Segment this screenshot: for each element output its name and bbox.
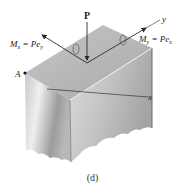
- eccentric-load-diagram: P y x A Mx = Pey My = Pex (d): [0, 0, 185, 191]
- label-point-a: A: [14, 69, 21, 79]
- figure-caption: (d): [0, 172, 185, 183]
- label-moment-y: My = Pex: [138, 34, 172, 45]
- label-y-axis: y: [161, 14, 166, 24]
- label-x-axis: x: [147, 92, 152, 102]
- label-p: P: [84, 10, 90, 21]
- diagram-canvas: P y x A Mx = Pey My = Pex: [0, 0, 185, 191]
- label-moment-x: Mx = Pey: [9, 39, 43, 50]
- y-axis-line: [146, 20, 160, 28]
- point-a-marker: [23, 71, 26, 74]
